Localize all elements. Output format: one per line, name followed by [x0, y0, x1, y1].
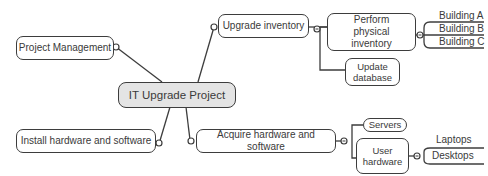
node-label: Laptops — [436, 134, 472, 145]
node-label: Upgrade inventory — [223, 20, 305, 32]
node-label: Building B — [439, 23, 484, 34]
node-label: Building A — [439, 10, 483, 21]
node-install-hardware-software[interactable]: Install hardware and software — [16, 129, 156, 153]
leaf-building-b[interactable]: Building B — [439, 23, 484, 35]
node-label: IT Upgrade Project — [129, 89, 225, 101]
node-label: Building C — [439, 36, 485, 47]
node-label: Servers — [369, 119, 402, 131]
node-upgrade-inventory[interactable]: Upgrade inventory — [218, 14, 309, 38]
node-update-database[interactable]: Update database — [345, 58, 400, 86]
node-label: Desktops — [432, 150, 474, 161]
node-label: Update database — [349, 61, 397, 83]
node-acquire-hardware-software[interactable]: Acquire hardware and software — [196, 129, 336, 153]
node-servers[interactable]: Servers — [363, 118, 407, 132]
node-label: Acquire hardware and software — [197, 129, 335, 153]
node-label: Project Management — [19, 42, 111, 54]
leaf-building-a[interactable]: Building A — [439, 10, 483, 22]
node-label: Perform physical inventory — [337, 14, 407, 50]
node-perform-physical-inventory[interactable]: Perform physical inventory — [327, 13, 416, 51]
leaf-building-c[interactable]: Building C — [439, 36, 485, 48]
node-user-hardware[interactable]: User hardware — [356, 138, 409, 174]
node-label: Install hardware and software — [21, 135, 152, 147]
node-label: User hardware — [361, 145, 405, 167]
leaf-desktops[interactable]: Desktops — [432, 150, 474, 162]
node-central-topic[interactable]: IT Upgrade Project — [118, 82, 236, 108]
node-project-management[interactable]: Project Management — [16, 36, 114, 60]
leaf-laptops[interactable]: Laptops — [436, 134, 472, 146]
